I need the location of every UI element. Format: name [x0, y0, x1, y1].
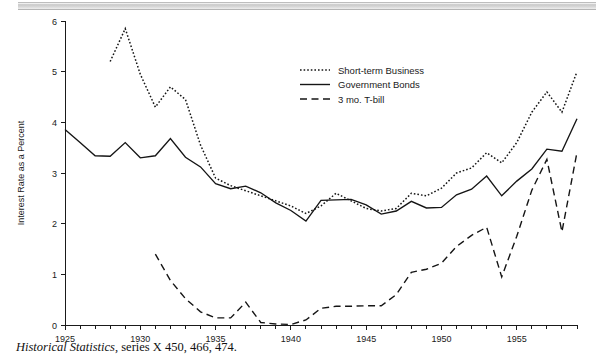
chart-legend: Short-term BusinessGovernment Bonds3 mo.…	[300, 65, 424, 105]
y-tick-label: 6	[52, 17, 57, 27]
legend-label-3: 3 mo. T-bill	[338, 94, 384, 105]
series-line-3-mo-t-bill	[155, 152, 577, 324]
figure-root: 0123456 1925193019351940194519501955 Sho…	[0, 0, 596, 362]
x-tick-label: 1940	[281, 334, 301, 344]
y-tick-label: 1	[52, 270, 57, 280]
interest-rate-line-chart: 0123456 1925193019351940194519501955 Sho…	[0, 0, 596, 362]
series-line-short-term-business	[110, 29, 577, 214]
source-note: Historical Statistics, series X 450, 466…	[16, 340, 237, 355]
x-tick-label: 1955	[507, 334, 527, 344]
series-layer	[65, 29, 577, 325]
source-note-title: Historical Statistics	[16, 340, 115, 354]
x-tick-label: 1945	[356, 334, 376, 344]
y-tick-label: 4	[52, 118, 57, 128]
y-axis-title: Interest Rate as a Percent	[16, 120, 26, 225]
y-tick-label: 0	[52, 321, 57, 331]
y-tick-label: 2	[52, 219, 57, 229]
x-tick-label: 1950	[431, 334, 451, 344]
y-tick-label: 5	[52, 67, 57, 77]
y-axis: 0123456	[52, 17, 65, 331]
legend-label-1: Short-term Business	[338, 65, 424, 76]
legend-label-2: Government Bonds	[338, 79, 420, 90]
y-tick-label: 3	[52, 169, 57, 179]
source-note-rest: , series X 450, 466, 474.	[115, 340, 237, 354]
